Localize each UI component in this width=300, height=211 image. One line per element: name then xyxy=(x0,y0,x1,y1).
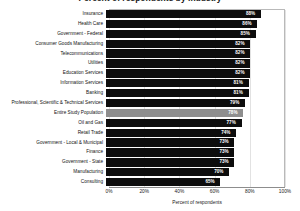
bar xyxy=(106,69,250,77)
bar-track: 73% xyxy=(106,138,282,146)
bar xyxy=(106,178,220,186)
category-label: Education Services xyxy=(0,70,106,76)
category-label: Consumer Goods Manufacturing xyxy=(0,41,106,47)
bar-value-label: 81% xyxy=(234,89,243,97)
bar-row: Education Services82% xyxy=(0,68,300,78)
bar-row: Consumer Goods Manufacturing82% xyxy=(0,39,300,49)
bar-track: 78% xyxy=(106,109,282,117)
bar-row: Oil and Gas77% xyxy=(0,118,300,128)
x-tick-label: 0% xyxy=(106,189,113,194)
category-label: Entire Study Population xyxy=(0,110,106,116)
bar xyxy=(106,148,234,156)
bar xyxy=(106,10,261,18)
bar-value-label: 85% xyxy=(241,30,250,38)
bar-track: 70% xyxy=(106,168,282,176)
category-label: Health Care xyxy=(0,21,106,27)
bar-row: Consulting65% xyxy=(0,177,300,187)
bar xyxy=(106,49,250,57)
bar-value-label: 74% xyxy=(221,129,230,137)
bar xyxy=(106,40,250,48)
category-label: Insurance xyxy=(0,11,106,17)
bar-value-label: 81% xyxy=(234,79,243,87)
bar-rows: Insurance88%Health Care86%Government - F… xyxy=(0,9,300,187)
category-label: Government - Federal xyxy=(0,31,106,37)
bar-track: 81% xyxy=(106,89,282,97)
bar-row: Government - Local & Municipal73% xyxy=(0,138,300,148)
bar-row: Government - State73% xyxy=(0,157,300,167)
bar xyxy=(106,20,257,28)
category-label: Retail Trade xyxy=(0,130,106,136)
category-label: Utilities xyxy=(0,60,106,66)
bar xyxy=(106,30,256,38)
category-label: Professional, Scientific & Technical Ser… xyxy=(0,100,106,106)
x-tick-label: 100% xyxy=(279,189,291,194)
bar-track: 74% xyxy=(106,129,282,137)
x-axis-title: Percent of respondents xyxy=(109,200,285,205)
category-label: Finance xyxy=(0,149,106,155)
bar-value-label: 73% xyxy=(219,148,228,156)
bar-track: 73% xyxy=(106,158,282,166)
bar xyxy=(106,89,249,97)
category-label: Telecommunications xyxy=(0,51,106,57)
bar xyxy=(106,168,229,176)
bar-row: Professional, Scientific & Technical Ser… xyxy=(0,98,300,108)
bar-row: Retail Trade74% xyxy=(0,128,300,138)
bar-track: 81% xyxy=(106,79,282,87)
bar-value-label: 78% xyxy=(228,109,237,117)
bar-row: Manufacturing70% xyxy=(0,167,300,177)
bar-value-label: 82% xyxy=(235,40,244,48)
bar xyxy=(106,138,234,146)
x-tick-label: 40% xyxy=(175,189,185,194)
bar-row: Telecommunications82% xyxy=(0,49,300,59)
bar-track: 82% xyxy=(106,59,282,67)
x-tick-label: 20% xyxy=(139,189,149,194)
bar-value-label: 88% xyxy=(246,10,255,18)
bar xyxy=(106,79,249,87)
bar-row: Banking81% xyxy=(0,88,300,98)
bar-value-label: 65% xyxy=(205,178,214,186)
bar-value-label: 73% xyxy=(219,138,228,146)
bar xyxy=(106,119,242,127)
bar-value-label: 86% xyxy=(242,20,251,28)
bar xyxy=(106,59,250,67)
bar-track: 77% xyxy=(106,119,282,127)
x-axis-line xyxy=(109,187,285,188)
category-label: Manufacturing xyxy=(0,169,106,175)
category-label: Oil and Gas xyxy=(0,120,106,126)
bar-value-label: 82% xyxy=(235,59,244,67)
bar-row: Entire Study Population78% xyxy=(0,108,300,118)
bar-track: 82% xyxy=(106,40,282,48)
bar-track: 65% xyxy=(106,178,282,186)
bar-value-label: 77% xyxy=(227,119,236,127)
category-label: Government - State xyxy=(0,159,106,165)
bar-row: Insurance88% xyxy=(0,9,300,19)
bar-track: 82% xyxy=(106,49,282,57)
x-tick-label: 80% xyxy=(245,189,255,194)
bar-track: 82% xyxy=(106,69,282,77)
bar-track: 86% xyxy=(106,20,282,28)
bar-highlight xyxy=(106,109,243,117)
bar-track: 79% xyxy=(106,99,282,107)
category-label: Information Services xyxy=(0,80,106,86)
category-label: Banking xyxy=(0,90,106,96)
category-label: Consulting xyxy=(0,179,106,185)
bar-value-label: 82% xyxy=(235,49,244,57)
bar-value-label: 70% xyxy=(214,168,223,176)
bar xyxy=(106,99,245,107)
bar-track: 85% xyxy=(106,30,282,38)
bar-row: Information Services81% xyxy=(0,78,300,88)
bar-row: Government - Federal85% xyxy=(0,29,300,39)
bar-value-label: 79% xyxy=(230,99,239,107)
bar-value-label: 73% xyxy=(219,158,228,166)
bar-row: Utilities82% xyxy=(0,58,300,68)
category-label: Government - Local & Municipal xyxy=(0,140,106,146)
bar xyxy=(106,129,236,137)
bar-value-label: 82% xyxy=(235,69,244,77)
bar-track: 88% xyxy=(106,10,282,18)
x-tick-label: 60% xyxy=(210,189,220,194)
chart-title: Percent of respondents by industry xyxy=(0,0,300,5)
bar-chart: Percent of respondents by industry Insur… xyxy=(0,0,300,211)
bar-row: Health Care86% xyxy=(0,19,300,29)
bar-track: 73% xyxy=(106,148,282,156)
bar-row: Finance73% xyxy=(0,147,300,157)
